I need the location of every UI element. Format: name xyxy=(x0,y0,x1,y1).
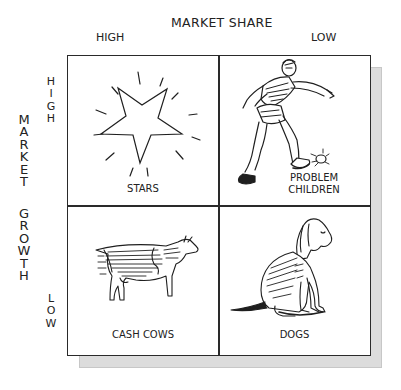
quadrant-stars: STARS xyxy=(68,56,218,205)
y-axis-title-market: M A R K E T xyxy=(17,114,31,188)
x-axis-high-label: HIGH xyxy=(96,31,124,44)
quadrant-cash-cows: CASH COWS xyxy=(68,206,218,355)
y-axis-title-growth: G R O W T H xyxy=(17,208,31,282)
y-axis-low-label: L O W xyxy=(44,293,58,330)
growth-share-matrix: STARS xyxy=(67,55,371,356)
quadrant-label-dogs: DOGS xyxy=(219,329,370,341)
quadrant-problem-children: PROBLEM CHILDREN xyxy=(219,56,370,205)
quadrant-label-stars: STARS xyxy=(68,183,218,195)
quadrant-label-problem: PROBLEM xyxy=(259,172,369,184)
quadrant-label-children: CHILDREN xyxy=(259,184,369,196)
quadrant-dogs: DOGS xyxy=(219,206,370,355)
y-axis-high-label: H I G H xyxy=(45,76,57,125)
x-axis-title: MARKET SHARE xyxy=(171,15,273,30)
x-axis-low-label: LOW xyxy=(311,31,336,44)
quadrant-label-cash-cows: CASH COWS xyxy=(68,329,218,341)
